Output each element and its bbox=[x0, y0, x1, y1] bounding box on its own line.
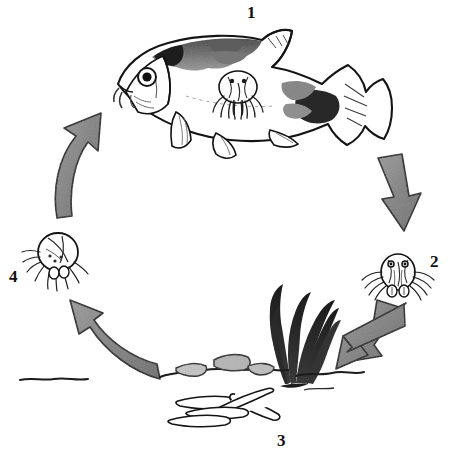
arrow-1-to-2 bbox=[378, 154, 421, 231]
life-cycle-illustration bbox=[0, 0, 451, 454]
stage-label-3: 3 bbox=[277, 432, 286, 449]
egg-strings bbox=[168, 388, 280, 426]
stage-4-larva bbox=[22, 233, 88, 291]
stage-1-fish bbox=[114, 30, 392, 158]
stage-label-4: 4 bbox=[9, 268, 18, 285]
diagram-canvas: 1 2 3 4 bbox=[0, 0, 451, 454]
arrow-4-to-1 bbox=[55, 113, 101, 218]
aquatic-plant bbox=[270, 284, 341, 388]
stage-2-parasite bbox=[362, 254, 434, 300]
stage-label-1: 1 bbox=[247, 4, 256, 21]
stage-label-2: 2 bbox=[430, 253, 439, 270]
arrow-3-to-4 bbox=[70, 300, 160, 379]
arrow-2-to-3 bbox=[336, 300, 406, 370]
substrate-rocks bbox=[176, 355, 274, 377]
